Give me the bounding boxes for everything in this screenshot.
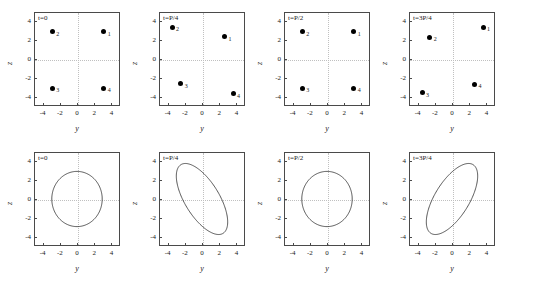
x-tick-mark — [435, 103, 436, 106]
data-point-marker — [50, 86, 55, 91]
data-point-label: 2 — [176, 26, 179, 32]
data-point-label: 4 — [358, 87, 361, 93]
y-tick-mark — [284, 97, 287, 98]
y-tick-mark — [34, 21, 37, 22]
data-point-label: 1 — [358, 31, 361, 37]
data-point-label: 1 — [229, 36, 232, 42]
x-tick-label: -4 — [165, 109, 171, 117]
x-tick-mark — [293, 103, 294, 106]
x-tick-label: 0 — [75, 109, 79, 117]
gridline-horizontal — [285, 60, 369, 61]
x-tick-label: -4 — [415, 249, 421, 257]
plot-area — [159, 152, 245, 246]
panel-title: t=3P/4 — [413, 14, 432, 22]
y-tick-mark — [409, 59, 412, 60]
y-tick-label: 0 — [18, 55, 31, 63]
y-tick-mark — [34, 97, 37, 98]
data-point-label: 4 — [108, 87, 111, 93]
x-tick-label: -4 — [290, 109, 296, 117]
x-tick-label: 2 — [92, 109, 96, 117]
data-point-label: 3 — [185, 83, 188, 89]
y-tick-mark — [159, 59, 162, 60]
data-point-marker — [420, 90, 425, 95]
x-tick-mark — [344, 103, 345, 106]
plot-panel-scatter-1: 1234t=0-4-2024420-2-4yz — [0, 0, 135, 140]
y-axis-label: z — [5, 62, 14, 65]
y-tick-label: 4 — [18, 17, 31, 25]
x-tick-label: 0 — [325, 249, 329, 257]
y-tick-label: -4 — [18, 93, 31, 101]
data-point-marker — [300, 29, 305, 34]
x-tick-label: 4 — [235, 109, 239, 117]
y-tick-label: 0 — [268, 55, 281, 63]
x-tick-mark — [418, 103, 419, 106]
x-tick-mark — [236, 103, 237, 106]
x-tick-label: 0 — [450, 249, 454, 257]
y-tick-label: 2 — [393, 36, 406, 44]
x-tick-label: 4 — [235, 249, 239, 257]
data-point-marker — [351, 86, 356, 91]
gridline-vertical — [203, 13, 204, 105]
y-tick-label: -2 — [393, 214, 406, 222]
plot-panel-ellipse-4: t=3P/4-4-2024420-2-4yz — [375, 140, 510, 280]
plot-panel-ellipse-3: t=P/2-4-2024420-2-4yz — [250, 140, 385, 280]
y-tick-label: 0 — [393, 55, 406, 63]
y-tick-label: 2 — [143, 176, 156, 184]
x-tick-label: -4 — [290, 249, 296, 257]
y-tick-mark — [284, 40, 287, 41]
data-point-marker — [231, 91, 236, 96]
panel-title: t=0 — [38, 154, 47, 162]
x-tick-mark — [452, 103, 453, 106]
x-tick-label: 4 — [110, 249, 114, 257]
data-point-marker — [351, 29, 356, 34]
y-tick-label: 0 — [143, 195, 156, 203]
x-tick-label: 4 — [360, 249, 364, 257]
x-axis-label: y — [159, 264, 245, 273]
x-tick-label: -2 — [432, 249, 438, 257]
y-tick-label: 4 — [18, 157, 31, 165]
x-tick-mark — [111, 103, 112, 106]
x-tick-label: -2 — [57, 249, 63, 257]
x-axis-label: y — [284, 264, 370, 273]
x-tick-mark — [202, 103, 203, 106]
x-tick-label: -4 — [165, 249, 171, 257]
x-tick-label: 0 — [325, 109, 329, 117]
data-point-marker — [170, 25, 175, 30]
data-point-marker — [178, 81, 183, 86]
x-tick-mark — [361, 103, 362, 106]
data-point-label: 1 — [108, 31, 111, 37]
x-tick-label: 2 — [217, 249, 221, 257]
x-tick-label: 2 — [342, 109, 346, 117]
y-tick-label: -2 — [393, 74, 406, 82]
x-axis-label: y — [159, 124, 245, 133]
y-tick-label: -2 — [143, 74, 156, 82]
ellipse-curve — [410, 153, 494, 245]
gridline-horizontal — [35, 60, 119, 61]
y-tick-mark — [159, 97, 162, 98]
x-tick-mark — [77, 103, 78, 106]
x-tick-label: -2 — [307, 109, 313, 117]
data-point-label: 3 — [56, 87, 59, 93]
y-tick-mark — [159, 78, 162, 79]
y-tick-label: 4 — [268, 17, 281, 25]
x-tick-mark — [219, 103, 220, 106]
x-tick-mark — [185, 103, 186, 106]
x-axis-label: y — [409, 124, 495, 133]
y-tick-mark — [409, 21, 412, 22]
y-tick-mark — [159, 21, 162, 22]
x-axis-label: y — [34, 264, 120, 273]
x-tick-label: 2 — [467, 109, 471, 117]
plot-area — [34, 152, 120, 246]
panel-title: t=0 — [38, 14, 47, 22]
x-tick-label: 0 — [200, 109, 204, 117]
data-point-label: 3 — [426, 92, 429, 98]
x-tick-mark — [94, 103, 95, 106]
y-axis-label: z — [255, 202, 264, 205]
y-tick-label: -4 — [393, 233, 406, 241]
y-tick-mark — [159, 40, 162, 41]
gridline-horizontal — [160, 60, 244, 61]
x-tick-label: 2 — [467, 249, 471, 257]
x-tick-label: 4 — [485, 249, 489, 257]
data-point-label: 2 — [434, 36, 437, 42]
y-tick-label: 4 — [393, 17, 406, 25]
